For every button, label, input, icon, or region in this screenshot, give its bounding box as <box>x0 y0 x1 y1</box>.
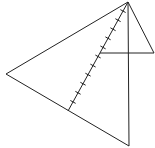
geometry-diagram <box>0 0 155 148</box>
segment-apex-left <box>6 2 128 74</box>
segment-apex-bottom <box>128 2 129 146</box>
segment-apex-right <box>128 2 154 53</box>
segment-left-bottom <box>6 74 129 146</box>
